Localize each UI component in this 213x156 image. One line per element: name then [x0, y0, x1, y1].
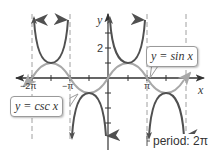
graph-canvas — [0, 0, 213, 156]
period-label: period: 2π — [152, 134, 209, 148]
sin-label-text: y = sin x — [151, 49, 193, 63]
sin-label: y = sin x — [146, 46, 198, 67]
x-tick-neg-pi: −π — [62, 82, 73, 91]
x-tick-neg-2pi: −2π — [20, 82, 36, 91]
x-tick-pi: π — [144, 82, 150, 91]
x-axis-label: x — [198, 84, 203, 96]
axes — [16, 14, 204, 150]
csc-label-text: y = csc x — [15, 99, 58, 113]
y-tick-2: 2 — [97, 43, 103, 54]
csc-label: y = csc x — [10, 96, 63, 117]
y-axis-label: y — [97, 14, 102, 26]
